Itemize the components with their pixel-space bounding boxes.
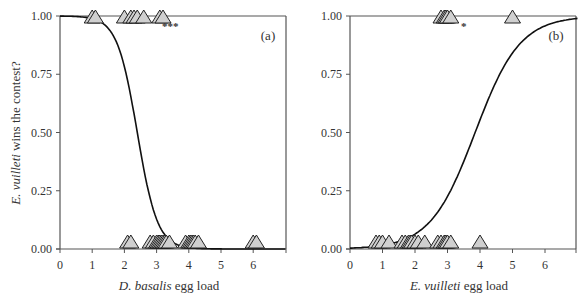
y-axis-label-species: E. vuilleti [8, 154, 23, 206]
x-tick-label: 0 [347, 258, 353, 272]
x-tick-label: 4 [186, 258, 192, 272]
panel-label: (b) [548, 28, 563, 43]
x-tick-label: 0 [57, 258, 63, 272]
logistic-curve [350, 18, 578, 248]
y-tick-label: 0.25 [321, 184, 342, 198]
significance-marker: *** [162, 20, 179, 32]
x-tick-label: 5 [218, 258, 224, 272]
x-axis-label: E. vuilleti egg load [409, 278, 509, 293]
x-tick-label: 1 [380, 258, 386, 272]
y-tick-label: 1.00 [31, 9, 52, 23]
x-axis-label-species: D. basalis [118, 278, 172, 293]
x-tick-label: 6 [542, 258, 548, 272]
significance-marker: * [461, 20, 467, 32]
y-axis-label: E. vuilleti wins the contest? [8, 61, 23, 206]
logistic-curve [60, 16, 285, 249]
y-axis-label-rest: wins the contest? [8, 61, 23, 154]
x-axis-label-rest: egg load [460, 278, 508, 293]
y-tick-label: 0.00 [31, 242, 52, 256]
y-tick-label: 0.00 [321, 242, 342, 256]
x-tick-label: 5 [510, 258, 516, 272]
panel-a: 0.000.250.500.751.000123456D. basalis eg… [31, 9, 286, 293]
panel-b: 0.000.250.500.751.000123456E. vuilleti e… [321, 9, 578, 293]
panel-label: (a) [261, 28, 275, 43]
y-tick-label: 0.50 [321, 126, 342, 140]
x-axis-label-species: E. vuilleti [409, 278, 461, 293]
x-tick-label: 3 [445, 258, 451, 272]
x-tick-label: 6 [250, 258, 256, 272]
x-tick-label: 2 [412, 258, 418, 272]
x-tick-label: 3 [154, 258, 160, 272]
y-tick-label: 0.75 [321, 67, 342, 81]
x-tick-label: 4 [477, 258, 483, 272]
y-tick-label: 0.75 [31, 67, 52, 81]
x-tick-label: 1 [89, 258, 95, 272]
x-axis-label: D. basalis egg load [118, 278, 220, 293]
x-axis-label-rest: egg load [172, 278, 220, 293]
x-tick-label: 2 [121, 258, 127, 272]
y-tick-label: 1.00 [321, 9, 342, 23]
y-tick-label: 0.50 [31, 126, 52, 140]
y-tick-label: 0.25 [31, 184, 52, 198]
data-point-triangle [472, 235, 488, 248]
chart-figure: 0.000.250.500.751.000123456D. basalis eg… [0, 0, 580, 301]
